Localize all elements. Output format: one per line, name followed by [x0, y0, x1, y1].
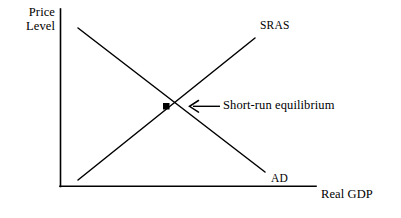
equilibrium-point-marker — [163, 103, 170, 110]
y-axis-title-line1: Price — [8, 6, 55, 20]
ad-curve-label: AD — [271, 172, 288, 184]
sras-curve-label: SRAS — [260, 19, 290, 31]
x-axis-title: Real GDP — [321, 188, 373, 202]
equilibrium-annotation-label: Short-run equilibrium — [223, 99, 334, 112]
figure-canvas: Price Level Real GDP SRAS AD Short-run e… — [0, 0, 401, 218]
y-axis-title-line2: Level — [8, 20, 55, 34]
y-axis-title: Price Level — [8, 6, 55, 33]
diagram-svg — [0, 0, 401, 218]
